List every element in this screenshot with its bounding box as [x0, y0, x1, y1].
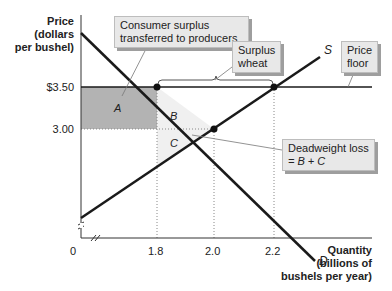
point-supply-floor	[271, 84, 278, 91]
point-equilibrium	[211, 126, 218, 133]
x-tick-0: 0	[70, 245, 76, 258]
region-b-label: B	[170, 110, 177, 123]
callout-price-floor: Price floor	[341, 41, 378, 73]
y-axis-title: Price (dollars per bushel)	[15, 15, 74, 54]
supply-label: S	[324, 44, 332, 57]
demand-label: D	[319, 255, 328, 268]
region-c-label: C	[170, 137, 178, 150]
y-tick-3-00: 3.00	[53, 123, 74, 136]
supply-curve	[81, 57, 320, 218]
leader-deadweight	[192, 135, 282, 150]
x-tick-1-8: 1.8	[148, 245, 163, 258]
y-tick-3-50: $3.50	[46, 81, 74, 94]
callout-surplus-wheat: Surplus wheat	[232, 41, 281, 73]
x-tick-2-0: 2.0	[205, 245, 220, 258]
callout-consumer-surplus: Consumer surplus transferred to producer…	[114, 16, 249, 48]
leader-surplus-wheat	[215, 67, 232, 80]
point-demand-floor	[154, 84, 161, 91]
x-tick-2-2: 2.2	[265, 245, 280, 258]
callout-deadweight-loss: Deadweight loss = B + C	[282, 139, 375, 171]
region-a-label: A	[114, 102, 121, 115]
area-b	[157, 87, 214, 129]
